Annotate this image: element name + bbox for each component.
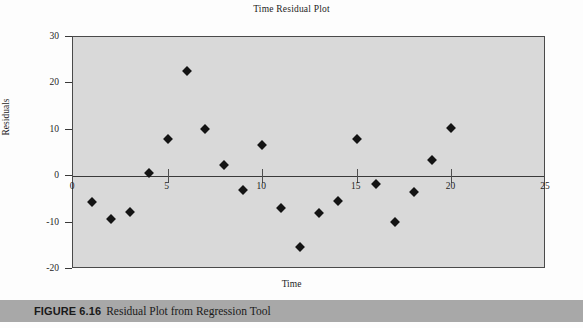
y-tick-mark (65, 175, 72, 176)
data-point (314, 208, 324, 218)
data-point (163, 134, 173, 144)
zero-baseline (73, 176, 544, 177)
data-point (257, 140, 267, 150)
figure-caption-title: Residual Plot from Regression Tool (101, 305, 270, 317)
data-point (87, 197, 97, 207)
y-tick-label: 10 (29, 124, 59, 134)
data-point (409, 187, 419, 197)
figure-caption-text: FIGURE 6.16Residual Plot from Regression… (0, 305, 271, 317)
y-axis-title: Residuals (1, 99, 11, 136)
figure-container: Time Residual Plot -20-10010203005101520… (0, 0, 583, 328)
y-tick-label: 30 (29, 31, 59, 41)
figure-caption-bar: FIGURE 6.16Residual Plot from Regression… (0, 300, 583, 322)
data-point (428, 155, 438, 165)
y-tick-label: -10 (29, 217, 59, 227)
plot-area (72, 36, 545, 268)
y-tick-label: 20 (29, 77, 59, 87)
y-tick-mark (65, 268, 72, 269)
data-point (200, 124, 210, 134)
data-point (182, 66, 192, 76)
y-tick-mark (65, 82, 72, 83)
data-point (219, 160, 229, 170)
figure-caption-label: FIGURE 6.16 (34, 305, 101, 317)
data-point (106, 214, 116, 224)
x-tick-label: 20 (435, 181, 465, 191)
x-tick-label: 0 (57, 181, 87, 191)
x-axis-title: Time (0, 279, 583, 289)
x-tick-label: 15 (341, 181, 371, 191)
y-tick-mark (65, 222, 72, 223)
data-point (276, 203, 286, 213)
data-point (371, 179, 381, 189)
x-tick-label: 10 (246, 181, 276, 191)
y-tick-label: -20 (29, 263, 59, 273)
chart-title: Time Residual Plot (0, 4, 583, 14)
y-tick-mark (65, 129, 72, 130)
data-point (390, 217, 400, 227)
data-point (352, 134, 362, 144)
plot-inner (73, 37, 544, 267)
data-point (125, 207, 135, 217)
data-point (295, 242, 305, 252)
data-point (333, 196, 343, 206)
y-tick-label: 0 (29, 170, 59, 180)
x-tick-label: 25 (530, 181, 560, 191)
y-tick-mark (65, 36, 72, 37)
data-point (446, 123, 456, 133)
x-tick-label: 5 (152, 181, 182, 191)
